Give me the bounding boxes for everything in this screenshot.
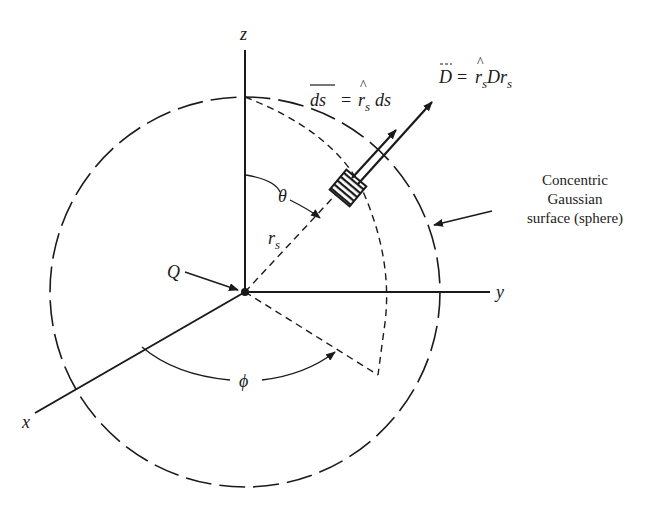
z-axis-label: z	[239, 24, 247, 44]
surface-caption: Concentric Gaussian surface (sphere)	[527, 172, 623, 227]
surface-element	[330, 170, 367, 207]
surface-pointer-arrow	[434, 211, 492, 225]
D-equation: D = ^ rsDrs	[438, 55, 512, 91]
gaussian-sphere-diagram: z y x Q θ ϕ rs ds = ^ rsds D = ^ rsDrs C…	[0, 0, 663, 506]
svg-text:Gaussian: Gaussian	[548, 191, 603, 207]
svg-text:=: =	[457, 67, 467, 87]
radius-line	[245, 190, 340, 292]
svg-text:rsds: rsds	[358, 90, 391, 114]
svg-text:D: D	[438, 67, 452, 87]
svg-text:Concentric: Concentric	[542, 172, 608, 188]
ds-vector-arrow	[352, 130, 396, 178]
D-vector-arrow	[358, 102, 432, 184]
svg-text:surface (sphere): surface (sphere)	[527, 210, 623, 227]
meridian-arc	[245, 97, 387, 375]
theta-label: θ	[278, 186, 287, 206]
radius-label: rs	[268, 228, 280, 252]
x-axis-label: x	[21, 412, 30, 432]
svg-text:=: =	[341, 90, 351, 110]
x-axis	[35, 292, 245, 413]
y-axis-label: y	[494, 282, 504, 302]
charge-pointer-arrow	[185, 272, 238, 290]
svg-text:ds: ds	[310, 90, 326, 110]
charge-label: Q	[167, 262, 180, 282]
svg-text:rsDrs: rsDrs	[475, 67, 512, 91]
phi-label: ϕ	[239, 371, 248, 391]
ds-equation: ds = ^ rsds	[310, 78, 391, 114]
projection-line	[245, 292, 378, 375]
